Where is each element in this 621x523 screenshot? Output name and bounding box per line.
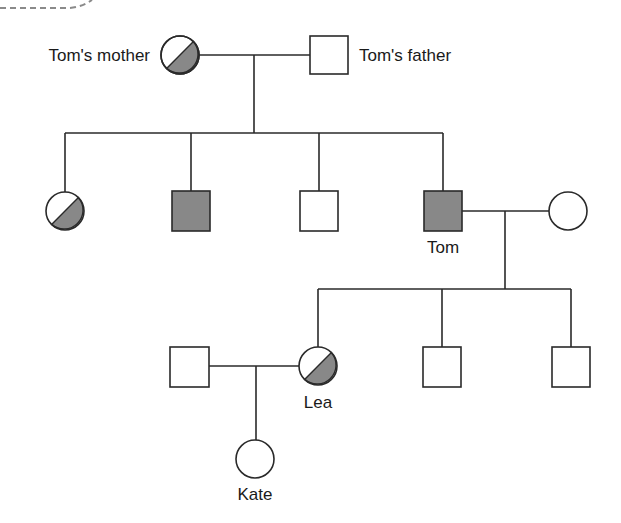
pedigree-diagram: Tom's mother Tom's father Tom: [0, 0, 621, 523]
toms-father-label: Tom's father: [359, 46, 451, 65]
kate-label: Kate: [238, 485, 273, 504]
toms-mother-symbol[interactable]: [161, 36, 199, 74]
kate-symbol[interactable]: [236, 440, 274, 478]
tom-label: Tom: [427, 238, 459, 257]
tom-symbol[interactable]: [424, 191, 462, 231]
toms-father-symbol[interactable]: [310, 36, 348, 74]
iii-4-symbol[interactable]: [552, 347, 590, 387]
lea-symbol[interactable]: [299, 347, 337, 385]
leas-husband-symbol[interactable]: [170, 347, 209, 387]
ii-1-symbol[interactable]: [46, 192, 84, 230]
ii-2-symbol[interactable]: [172, 191, 210, 231]
generation-4: Kate: [236, 440, 274, 504]
dashed-decoration: [0, 0, 92, 8]
lea-label: Lea: [304, 393, 333, 412]
generation-2: Tom: [46, 133, 587, 289]
iii-3-symbol[interactable]: [423, 347, 461, 387]
generation-1: Tom's mother Tom's father: [49, 36, 452, 133]
toms-wife-symbol[interactable]: [549, 192, 587, 230]
generation-3: Lea: [170, 289, 590, 440]
toms-mother-label: Tom's mother: [49, 46, 151, 65]
ii-3-symbol[interactable]: [300, 191, 338, 231]
